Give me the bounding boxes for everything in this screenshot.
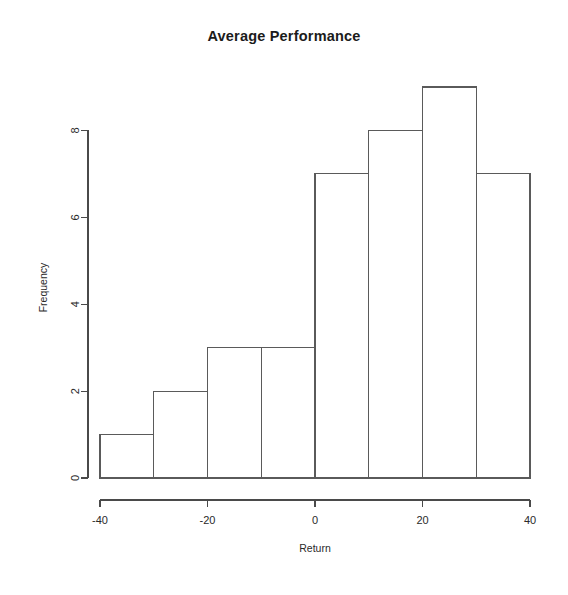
y-axis-tick-label: 8 [69, 127, 81, 133]
x-axis-tick-label: 40 [524, 514, 536, 526]
y-axis-tick-label: 6 [69, 214, 81, 220]
x-axis-tick-label: 0 [312, 514, 318, 526]
histogram-chart: Average Performance 02468-40-2002040 Ret… [0, 0, 568, 595]
y-axis-tick-label: 0 [69, 475, 81, 481]
histogram-bar [423, 87, 477, 478]
histogram-bar [315, 174, 369, 478]
x-axis-tick-label: -40 [92, 514, 108, 526]
x-axis-title: Return [299, 542, 331, 554]
histogram-bar [208, 348, 262, 478]
y-axis-title: Frequency [37, 262, 49, 312]
bars-group [100, 87, 530, 478]
x-axis-tick-label: -20 [200, 514, 216, 526]
y-axis-tick-label: 2 [69, 388, 81, 394]
histogram-bar [476, 174, 530, 478]
histogram-bar [369, 130, 423, 478]
histogram-bar [261, 348, 315, 478]
plot-area: 02468-40-2002040 ReturnFrequency [0, 0, 568, 595]
histogram-bar [154, 391, 208, 478]
x-axis-tick-label: 20 [416, 514, 428, 526]
axes-group: 02468-40-2002040 [69, 127, 536, 526]
histogram-bar [100, 435, 154, 478]
y-axis-tick-label: 4 [69, 301, 81, 307]
